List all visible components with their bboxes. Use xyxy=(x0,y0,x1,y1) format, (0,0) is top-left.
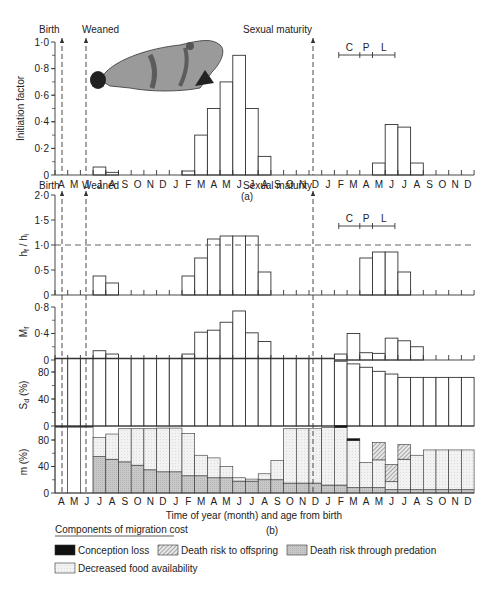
month-label: F xyxy=(338,496,344,507)
month-label: A xyxy=(210,179,217,190)
food-segment xyxy=(271,461,284,480)
food-segment xyxy=(220,467,233,478)
food-segment xyxy=(360,463,373,488)
s-d-bar xyxy=(195,359,208,427)
food-segment xyxy=(449,450,462,490)
legend-item-label: Decreased food availability xyxy=(78,563,198,574)
m-f-bar xyxy=(385,338,398,360)
s-d-bar xyxy=(119,359,132,427)
s-d-bar xyxy=(55,359,68,427)
month-label: S xyxy=(122,179,129,190)
h-ratio-bar xyxy=(207,239,220,295)
y-tick-label: 80 xyxy=(38,435,50,446)
m-f-bar xyxy=(334,354,347,360)
month-label: N xyxy=(451,496,458,507)
month-label: D xyxy=(159,179,166,190)
initiation-bar xyxy=(385,124,398,175)
s-d-bar xyxy=(309,359,322,427)
h-ratio-bar xyxy=(195,258,208,295)
food-segment xyxy=(411,455,424,489)
y-tick-label: 0·8 xyxy=(35,63,50,74)
h-ratio-bar xyxy=(93,276,106,295)
s-d-bar xyxy=(157,359,170,427)
y-tick-label: 0·8 xyxy=(35,302,50,313)
s-d-bar xyxy=(436,377,449,426)
food-segment xyxy=(258,474,271,480)
h-ratio-bar xyxy=(385,252,398,295)
food-segment xyxy=(80,427,93,493)
s-d-bar xyxy=(258,359,271,427)
s-d-bar xyxy=(385,374,398,426)
s-d-bar xyxy=(93,359,106,427)
predation-segment xyxy=(258,480,271,493)
month-label: F xyxy=(338,179,344,190)
predation-segment xyxy=(119,462,132,493)
predation-segment xyxy=(322,485,335,493)
legend-swatch-grey xyxy=(287,545,307,555)
h-ratio-bar xyxy=(398,272,411,295)
month-label: N xyxy=(147,179,154,190)
predation-segment xyxy=(461,490,474,493)
s-d-bar xyxy=(449,377,462,426)
month-label: M xyxy=(70,496,78,507)
arrow-icon xyxy=(311,38,315,43)
s-d-bar xyxy=(411,377,424,426)
s-d-bar xyxy=(68,359,81,427)
predation-segment xyxy=(195,476,208,493)
month-label: A xyxy=(210,496,217,507)
predation-segment xyxy=(182,476,195,493)
initiation-bar xyxy=(398,127,411,175)
food-segment xyxy=(347,441,360,488)
y-tick-label: 0·5 xyxy=(35,265,50,276)
y-tick-label: 40 xyxy=(38,461,50,472)
predation-segment xyxy=(131,465,144,493)
m-f-bar xyxy=(258,341,271,360)
x-axis-title: Time of year (month) and age from birth xyxy=(166,510,342,521)
month-label: S xyxy=(122,496,129,507)
phase-label-c: C xyxy=(346,42,353,53)
marmot-illustration xyxy=(90,40,223,91)
predation-segment xyxy=(334,485,347,493)
predation-segment xyxy=(398,490,411,493)
y-tick-label: 0 xyxy=(43,421,49,432)
h-ratio-ylabel: hf / hi xyxy=(18,233,30,256)
food-segment xyxy=(131,429,144,465)
s-d-bar xyxy=(296,359,309,427)
y-tick-label: 0 xyxy=(43,170,49,181)
predation-segment xyxy=(246,481,259,493)
month-label: F xyxy=(185,496,191,507)
predation-segment xyxy=(271,480,284,493)
figure: 00·20·40·60·81·0Initiation factorAMJJASO… xyxy=(0,0,495,590)
predation-segment xyxy=(169,472,182,493)
maturity-label-b: Sexual maturity xyxy=(243,180,312,191)
predation-segment xyxy=(220,478,233,493)
month-label: O xyxy=(134,179,142,190)
arrow-icon xyxy=(60,38,64,43)
h-ratio-bar xyxy=(360,258,373,295)
m-cost-ylabel: m (%) xyxy=(18,449,29,476)
s-d-bar xyxy=(106,359,119,427)
predation-segment xyxy=(296,483,309,493)
month-label: M xyxy=(70,179,78,190)
s-d-bar xyxy=(334,361,347,426)
s-d-bar xyxy=(220,359,233,427)
month-label: A xyxy=(363,179,370,190)
s-d-bar xyxy=(284,359,297,427)
legend-swatch-solid-black xyxy=(55,545,75,555)
food-segment xyxy=(296,429,309,483)
h-ratio-bar xyxy=(106,283,119,295)
month-label: M xyxy=(197,179,205,190)
food-segment xyxy=(144,429,157,470)
food-segment xyxy=(93,437,106,456)
s-d-bar xyxy=(347,364,360,426)
y-tick-label: 0 xyxy=(43,355,49,366)
phase-label-p: P xyxy=(363,42,370,53)
month-label: J xyxy=(326,496,331,507)
food-segment xyxy=(284,429,297,483)
y-tick-label: 0·4 xyxy=(35,328,50,339)
conception-segment xyxy=(347,439,360,441)
predation-segment xyxy=(373,488,386,493)
food-segment xyxy=(68,427,81,493)
birth-label-b: Birth xyxy=(39,180,60,191)
month-label: D xyxy=(464,179,471,190)
